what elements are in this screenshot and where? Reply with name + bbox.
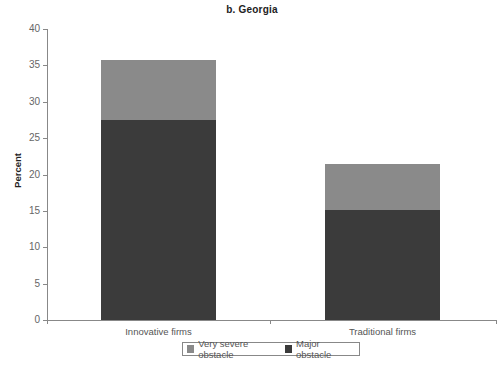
x-axis-line [47,320,497,321]
x-category-label: Traditional firms [313,326,453,337]
y-tick [43,65,47,66]
y-tick [43,138,47,139]
y-tick-label: 5 [18,278,40,289]
y-tick-label: 25 [18,132,40,143]
y-tick-label: 15 [18,205,40,216]
y-tick-label: 40 [18,23,40,34]
y-tick [43,284,47,285]
y-tick-label: 35 [18,59,40,70]
x-category-label: Innovative firms [89,326,229,337]
bar-segment [101,60,216,120]
chart-title: b. Georgia [0,4,504,15]
legend-swatch-very-severe [187,345,194,353]
bar-segment [101,120,216,320]
legend-item-major: Major obstacle [285,338,351,360]
x-tick [270,320,271,324]
y-tick-label: 20 [18,169,40,180]
y-tick-label: 10 [18,241,40,252]
legend: Very severe obstacle Major obstacle [182,342,360,356]
legend-swatch-major [285,345,292,353]
y-tick [43,211,47,212]
y-axis-line [47,29,48,321]
legend-item-very-severe: Very severe obstacle [187,338,277,360]
y-tick [43,29,47,30]
y-tick-label: 30 [18,96,40,107]
y-tick [43,247,47,248]
bar-segment [325,210,440,320]
y-tick [43,175,47,176]
bar-segment [325,164,440,210]
y-tick [43,102,47,103]
x-tick [496,320,497,324]
legend-label-very-severe: Very severe obstacle [198,338,277,360]
y-tick-label: 0 [18,314,40,325]
legend-label-major: Major obstacle [296,338,351,360]
x-tick [47,320,48,324]
